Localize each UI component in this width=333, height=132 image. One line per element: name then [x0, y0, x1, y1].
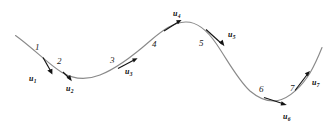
- point-number-4: 4: [152, 40, 157, 49]
- vector-label-u1-subscript: 1: [34, 78, 37, 84]
- vector-label-u1-name: u: [29, 74, 33, 83]
- tangent-vector-1: [43, 58, 52, 75]
- vector-label-u2-name: u: [66, 84, 70, 93]
- tangent-vector-7: [295, 71, 310, 91]
- tangent-vectors-group: [43, 20, 310, 106]
- point-number-1: 1: [35, 43, 40, 52]
- vector-label-u4: u4: [173, 10, 180, 18]
- arrow-head-6: [281, 101, 287, 105]
- vector-label-u6-name: u: [283, 112, 287, 121]
- point-number-6: 6: [259, 85, 264, 94]
- vector-label-u3: u3: [125, 68, 132, 76]
- vector-label-u5: u5: [228, 31, 235, 39]
- point-number-3: 3: [110, 56, 115, 65]
- vector-shaft-7: [295, 74, 308, 91]
- vector-label-u6-subscript: 6: [288, 116, 291, 122]
- vector-label-u5-name: u: [228, 30, 232, 39]
- vector-shaft-4: [164, 22, 179, 32]
- point-number-5: 5: [199, 39, 204, 48]
- vector-label-u7-name: u: [312, 78, 316, 87]
- vector-label-u7: u7: [312, 79, 319, 87]
- vector-label-u1: u1: [29, 75, 36, 83]
- vector-label-u4-name: u: [173, 9, 177, 18]
- vector-label-u3-name: u: [125, 67, 129, 76]
- arrow-head-3: [132, 58, 138, 62]
- point-number-7: 7: [290, 84, 295, 93]
- vector-shaft-1: [43, 58, 51, 72]
- curve-tangent-vector-figure: 1 2 3 4 5 6 7 u1 u2 u3 u4 u5 u6 u7: [0, 0, 333, 132]
- vector-label-u4-subscript: 4: [178, 13, 181, 19]
- vector-shaft-5: [206, 30, 222, 45]
- tangent-vector-4: [164, 20, 182, 31]
- vector-label-u5-subscript: 5: [233, 34, 236, 40]
- tangent-vector-5: [206, 30, 224, 47]
- vector-label-u2-subscript: 2: [71, 88, 74, 94]
- arrow-head-5: [219, 40, 224, 47]
- vector-label-u7-subscript: 7: [317, 82, 320, 88]
- vector-label-u2: u2: [66, 85, 73, 93]
- tangent-vector-2: [63, 72, 72, 81]
- vector-label-u3-subscript: 3: [130, 71, 133, 77]
- point-number-2: 2: [57, 57, 62, 66]
- vector-label-u6: u6: [283, 113, 290, 121]
